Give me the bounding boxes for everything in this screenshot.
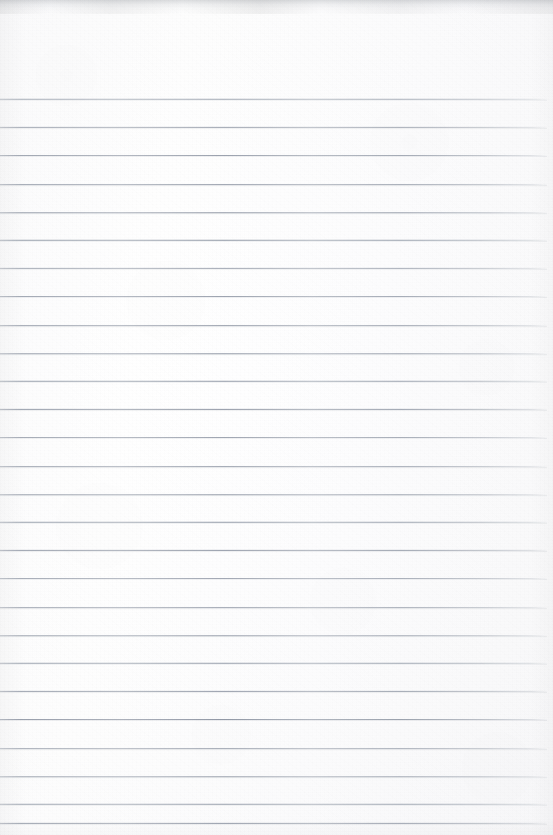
ruled-line <box>0 635 547 636</box>
ruled-line <box>0 804 547 805</box>
ruled-line <box>0 240 547 241</box>
ruled-line <box>0 578 547 579</box>
ruled-line <box>0 719 547 720</box>
ruled-line <box>0 99 547 100</box>
ruled-line <box>0 296 547 297</box>
ruled-line <box>0 409 547 410</box>
ruled-line <box>0 268 547 269</box>
ruled-line <box>0 494 547 495</box>
ruled-line <box>0 748 547 749</box>
ruled-line <box>0 522 547 523</box>
ruled-line-group <box>0 0 553 835</box>
ruled-line <box>0 212 547 213</box>
ruled-line <box>0 466 547 467</box>
scanned-notebook-page <box>0 0 553 835</box>
ruled-line <box>0 184 547 185</box>
ruled-line <box>0 325 547 326</box>
ruled-line <box>0 127 547 128</box>
ruled-line <box>0 353 547 354</box>
ruled-line <box>0 823 547 824</box>
ruled-line <box>0 691 547 692</box>
ruled-line <box>0 663 547 664</box>
ruled-line <box>0 776 547 777</box>
ruled-line <box>0 550 547 551</box>
ruled-line <box>0 437 547 438</box>
ruled-line <box>0 155 547 156</box>
ruled-line <box>0 607 547 608</box>
ruled-line <box>0 381 547 382</box>
